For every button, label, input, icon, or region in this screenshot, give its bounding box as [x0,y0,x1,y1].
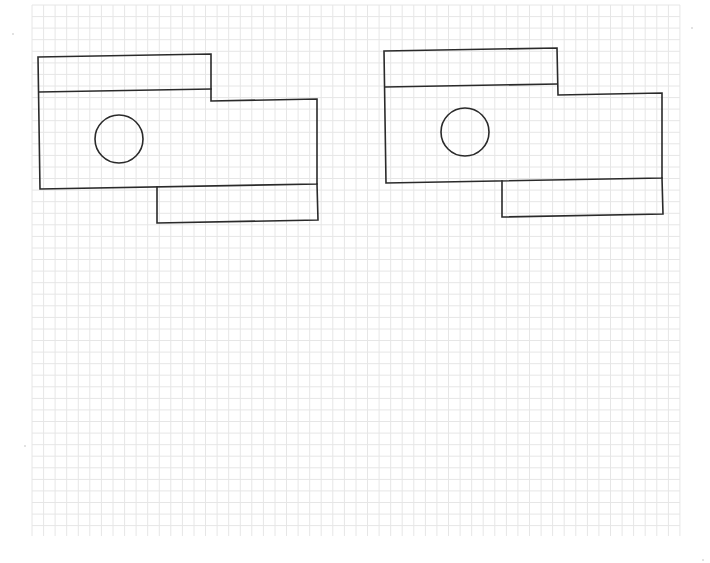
speck [702,559,704,561]
speck [12,33,14,35]
speck [24,445,26,447]
paper-background [0,0,710,563]
speck [691,27,693,29]
graph-paper-canvas [0,0,710,563]
